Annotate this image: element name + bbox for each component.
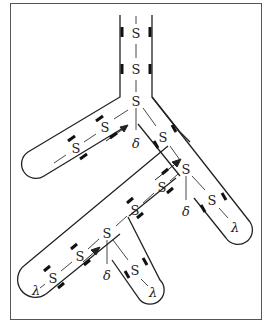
- node-label: S: [182, 162, 191, 177]
- node-label: S: [158, 180, 167, 195]
- delta-label: δ: [103, 268, 111, 283]
- branching-tube-diagram: S S S S S S S S S S S S S S δ δ δ λ λ λ: [0, 0, 278, 324]
- node-label: S: [132, 26, 141, 41]
- node-label: S: [159, 130, 168, 145]
- delta-labels: δ δ δ: [103, 136, 190, 283]
- node-label: S: [72, 141, 81, 156]
- delta-label: δ: [182, 204, 190, 219]
- node-label: S: [76, 249, 85, 264]
- node-label: S: [132, 94, 141, 109]
- lambda-label: λ: [31, 283, 40, 298]
- node-label: S: [132, 62, 141, 77]
- node-label: S: [101, 120, 110, 135]
- lambda-label: λ: [148, 285, 157, 300]
- node-label: S: [131, 263, 140, 278]
- centerline-dashes: [40, 16, 228, 288]
- node-label: S: [103, 226, 112, 241]
- tube-walls: [18, 15, 253, 304]
- lambda-label: λ: [230, 220, 239, 235]
- node-label: S: [131, 203, 140, 218]
- delta-label: δ: [132, 136, 140, 151]
- node-label: S: [208, 193, 217, 208]
- node-label: S: [49, 271, 58, 286]
